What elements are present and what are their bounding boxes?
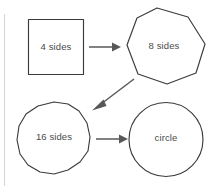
node-square: 4 sides bbox=[29, 20, 84, 75]
arrow-hexadecagon-to-circle bbox=[96, 135, 128, 144]
arrow-shaft bbox=[101, 79, 134, 104]
arrow-octagon-to-hexadecagon bbox=[92, 79, 134, 111]
node-octagon: 8 sides bbox=[127, 8, 205, 84]
node-circle: circle bbox=[129, 103, 203, 177]
diagram-canvas: 4 sides 8 sides 16 sides circle bbox=[0, 0, 217, 193]
node-hexadecagon: 16 sides bbox=[17, 102, 90, 174]
arrow-head bbox=[112, 43, 121, 52]
arrow-square-to-octagon bbox=[89, 43, 121, 52]
shape-progression-diagram: 4 sides 8 sides 16 sides circle bbox=[0, 0, 217, 193]
arrow-head bbox=[119, 135, 128, 144]
circle-label: circle bbox=[155, 132, 178, 143]
hexadecagon-label: 16 sides bbox=[36, 131, 72, 142]
octagon-label: 8 sides bbox=[149, 40, 180, 51]
square-label: 4 sides bbox=[41, 41, 72, 52]
